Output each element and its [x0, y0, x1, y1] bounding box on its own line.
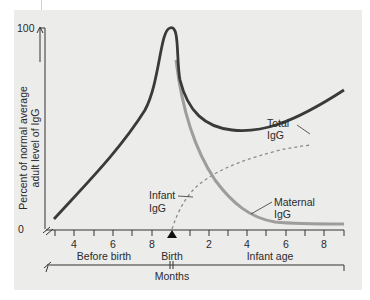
series-infant-igg — [172, 145, 312, 229]
birth-marker-icon — [167, 230, 177, 238]
x-segment-birth: Birth — [161, 250, 183, 262]
x-tick-after-4: 4 — [244, 238, 250, 250]
x-segment-before-birth: Before birth — [77, 250, 131, 262]
x-tick-after-8: 8 — [321, 238, 327, 250]
annotation-maternal-igg: Maternal IgG — [251, 196, 315, 220]
x-segment-infant-age: Infant age — [247, 250, 294, 262]
y-axis: 100 0 Percent of normal average adult le… — [17, 22, 45, 235]
y-axis-label-2: adult level of IgG — [29, 109, 41, 188]
series-total-igg — [54, 28, 344, 219]
svg-text:IgG: IgG — [149, 202, 166, 214]
x-tick-before-8: 8 — [149, 238, 155, 250]
x-axis-label-months: Months — [155, 270, 189, 282]
svg-text:Total: Total — [267, 117, 289, 129]
x-axis: 4 6 8 2 4 6 8 Before birth Birth Infant … — [43, 227, 344, 262]
annotation-infant-igg: Infant IgG — [149, 189, 193, 214]
x-tick-after-6: 6 — [283, 238, 289, 250]
y-tick-100: 100 — [17, 22, 35, 34]
y-tick-0: 0 — [18, 223, 24, 235]
svg-text:Infant: Infant — [149, 189, 175, 201]
annotation-total-igg: Total IgG — [267, 117, 310, 141]
svg-text:IgG: IgG — [267, 129, 284, 141]
svg-text:Maternal: Maternal — [274, 196, 315, 208]
y-axis-label-1: Percent of normal average — [17, 86, 29, 210]
x-tick-after-2: 2 — [206, 238, 212, 250]
x-tick-before-6: 6 — [110, 238, 116, 250]
x-tick-before-4: 4 — [71, 238, 77, 250]
igg-chart: 100 0 Percent of normal average adult le… — [0, 0, 370, 300]
months-bracket: Months — [44, 261, 344, 282]
series-maternal-igg — [176, 60, 344, 224]
svg-text:IgG: IgG — [274, 208, 291, 220]
